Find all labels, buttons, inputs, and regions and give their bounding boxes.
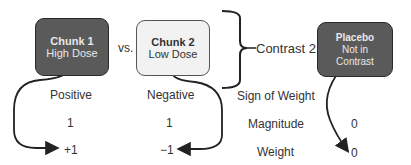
chunk2-box: Chunk 2 Low Dose [136, 20, 210, 76]
vs-label: vs. [118, 41, 133, 55]
chunk2-subtitle: Low Dose [149, 48, 198, 60]
placebo-weight: 0 [351, 146, 358, 160]
chunk2-weight: −1 [160, 143, 174, 157]
chunk1-sign: Positive [50, 88, 92, 102]
sign-row-label: Sign of Weight [237, 89, 315, 103]
placebo-title: Placebo [336, 32, 374, 44]
weight-row-label: Weight [257, 145, 294, 159]
arrow-placebo-to-weight [327, 69, 347, 150]
contrast-label: Contrast 2 [256, 41, 316, 56]
chunk1-weight: +1 [64, 143, 78, 157]
chunk1-title: Chunk 1 [50, 35, 93, 47]
brace-icon [222, 11, 247, 88]
chunk2-magnitude: 1 [166, 116, 173, 130]
magnitude-row-label: Magnitude [248, 117, 304, 131]
chunk1-magnitude: 1 [67, 116, 74, 130]
placebo-box: Placebo Not in Contrast [317, 22, 393, 77]
chunk2-title: Chunk 2 [151, 36, 194, 48]
chunk1-subtitle: High Dose [46, 47, 97, 59]
placebo-line2: Contrast [336, 56, 374, 68]
placebo-line1: Not in [342, 44, 368, 56]
chunk1-box: Chunk 1 High Dose [35, 18, 109, 76]
chunk2-sign: Negative [147, 88, 194, 102]
placebo-magnitude: 0 [351, 117, 358, 131]
